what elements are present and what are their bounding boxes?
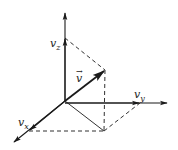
vx-component-arrow — [30, 101, 65, 130]
label-vy: vy — [134, 89, 145, 103]
projection-line — [65, 101, 104, 131]
dash-v-to-base — [104, 70, 105, 131]
vector-v-arrow — [65, 71, 104, 101]
label-vx-sub: x — [24, 122, 29, 131]
label-vz: vz — [50, 38, 60, 52]
label-vector-v: → v — [76, 73, 82, 84]
label-vz-sub: z — [56, 43, 60, 52]
label-vx: vx — [18, 117, 29, 131]
label-vy-sub: y — [140, 94, 145, 103]
dash-vz-to-v — [65, 38, 105, 70]
vector-arrow-icon: → — [76, 68, 83, 76]
dash-base-to-vy — [104, 103, 140, 131]
